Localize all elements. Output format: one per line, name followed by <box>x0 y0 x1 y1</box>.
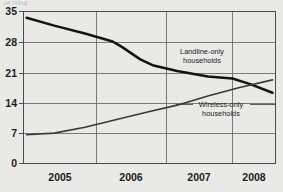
landline-annotation-line-2: households <box>183 56 221 65</box>
landline-annotation-line-1: Landline-only <box>180 47 224 56</box>
landline-annotation: Landline-only households <box>180 47 224 65</box>
wireless-annotation: Wireless-only households <box>199 100 244 118</box>
xtick-label-2005: 2005 <box>48 171 72 183</box>
ytick-label-7: 7 <box>11 127 17 139</box>
ytick-label-35: 35 <box>5 5 17 17</box>
chart-screenshot: of 2004 <box>0 0 283 192</box>
wireless-annotation-line-2: households <box>202 109 240 118</box>
ytick-label-28: 28 <box>5 36 17 48</box>
xtick-label-2007: 2007 <box>187 171 211 183</box>
y-tick-marks <box>19 12 23 164</box>
ytick-label-0: 0 <box>11 157 17 169</box>
x-axis-tick-labels: 2005 2006 2007 2008 <box>48 171 266 183</box>
chart-svg: 35 28 21 14 7 0 2005 2006 2007 2008 <box>0 0 283 192</box>
ytick-label-21: 21 <box>5 67 17 79</box>
ytick-label-14: 14 <box>5 97 17 109</box>
line-chart: 35 28 21 14 7 0 2005 2006 2007 2008 <box>0 0 283 192</box>
xtick-label-2008: 2008 <box>242 171 266 183</box>
xtick-label-2006: 2006 <box>119 171 143 183</box>
y-axis-tick-labels: 35 28 21 14 7 0 <box>5 5 17 169</box>
wireless-annotation-line-1: Wireless-only <box>199 100 244 109</box>
